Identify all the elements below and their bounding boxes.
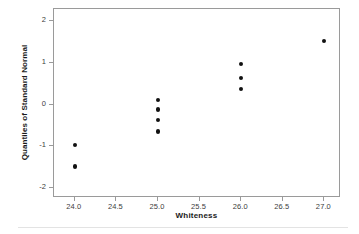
- y-axis-tick: [49, 20, 53, 21]
- data-point: [156, 118, 160, 122]
- bottom-rule: [18, 227, 348, 228]
- data-point: [156, 98, 160, 102]
- plot-frame: [53, 8, 340, 197]
- x-axis-tick-label: 26.5: [262, 202, 302, 211]
- x-axis-tick-label: 24.5: [95, 202, 135, 211]
- x-axis-tick: [115, 197, 116, 201]
- x-axis-tick: [74, 197, 75, 201]
- x-axis-tick: [282, 197, 283, 201]
- x-axis-tick-label: 25.5: [179, 202, 219, 211]
- y-axis-tick: [49, 62, 53, 63]
- y-axis-tick: [49, 104, 53, 105]
- y-axis-tick: [49, 145, 53, 146]
- x-axis-tick: [157, 197, 158, 201]
- x-axis-tick-label: 27.0: [303, 202, 343, 211]
- x-axis-tick-label: 26.0: [220, 202, 260, 211]
- x-axis-tick: [323, 197, 324, 201]
- data-point: [239, 62, 243, 66]
- data-point: [322, 39, 326, 43]
- scatter-data-layer: [54, 9, 339, 196]
- data-point: [239, 76, 243, 80]
- data-point: [73, 143, 77, 147]
- data-point: [73, 164, 77, 168]
- data-point: [156, 129, 160, 133]
- data-point: [156, 107, 160, 111]
- x-axis-tick-label: 25.0: [137, 202, 177, 211]
- x-axis-title: Whiteness: [53, 211, 340, 220]
- x-axis-tick-label: 24.0: [54, 202, 94, 211]
- normal-quantile-plot-figure: 24.024.525.025.526.026.527.0 210-1-2 Whi…: [0, 0, 359, 234]
- x-axis-tick: [240, 197, 241, 201]
- y-axis-tick: [49, 187, 53, 188]
- data-point: [239, 87, 243, 91]
- x-axis-tick: [199, 197, 200, 201]
- y-axis-title: Quantiles of Standard Normal: [20, 8, 34, 197]
